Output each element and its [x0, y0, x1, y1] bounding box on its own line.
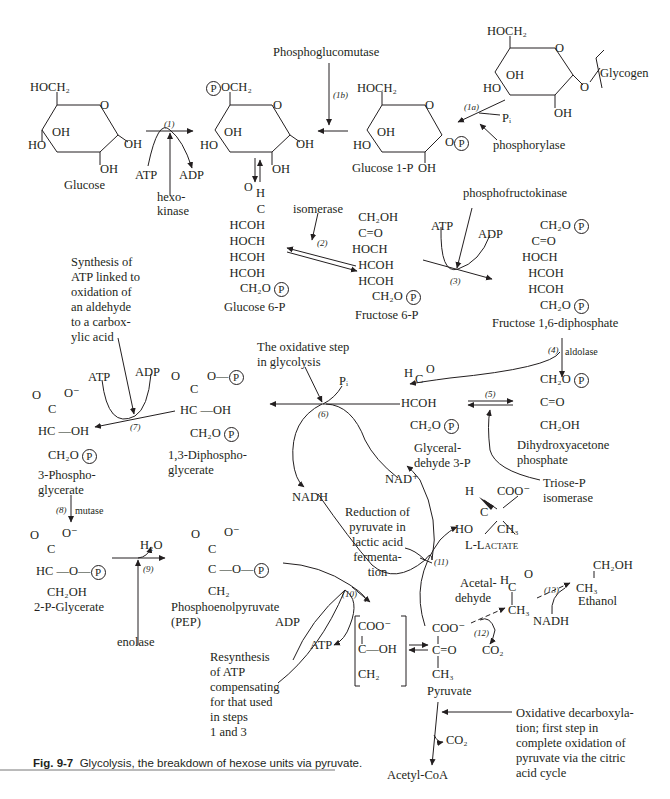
- hexokinase-label-2: kinase: [157, 204, 189, 219]
- h2o-label: H₂O: [140, 538, 162, 553]
- enol-ch2: CH₂: [358, 667, 380, 682]
- g1p-label: Glucose 1-P: [352, 161, 413, 176]
- glycogen-oh: OH: [506, 68, 524, 83]
- glycogen-o-link: O: [580, 80, 589, 95]
- glucose-ch2oh: HOCH₂: [30, 80, 70, 95]
- glucose-label: Glucose: [64, 178, 105, 193]
- pyruvate-co: C=O: [432, 643, 456, 658]
- f6p-chain: CH₂OH C=O HOCH HCOH HCOH: [352, 209, 398, 289]
- phosphate-icon: P: [444, 419, 459, 434]
- dhap-label-2: phosphate: [517, 453, 568, 468]
- nad-label: NAD⁺: [385, 472, 419, 487]
- lactate-c: C: [480, 505, 488, 520]
- step-11-label: (11): [434, 555, 448, 570]
- phosphate-icon: P: [454, 136, 469, 151]
- pg2-label: 2-P-Glycerate: [34, 600, 104, 615]
- glucose-oh: OH: [52, 125, 70, 140]
- bpg-label-1: 1,3-Diphospho-: [168, 448, 247, 463]
- g6p-ring-ch2: POCH₂: [206, 80, 252, 96]
- acetaldehyde-label-2: dehyde: [455, 591, 491, 606]
- pyruvate-ch3: CH₃: [432, 667, 454, 682]
- enol-c-oh: C—OH: [358, 642, 397, 657]
- pep-o: O: [191, 527, 200, 542]
- dhap-ch2oh: CH₂OH: [540, 418, 580, 433]
- bpg-o-p: O—P: [207, 369, 244, 385]
- phosphate-icon: P: [224, 427, 239, 442]
- phosphate-icon: P: [574, 219, 589, 234]
- phosphate-icon: P: [229, 370, 244, 385]
- glycogen-ho: HO: [483, 81, 501, 96]
- pg2-c: C: [47, 542, 55, 557]
- atp-synthesis-annotation: Synthesis of ATP linked to oxidation of …: [71, 255, 140, 345]
- g1p-oh: OH: [377, 125, 395, 140]
- enol-coo: COO⁻: [358, 619, 391, 634]
- step-2-label: (2): [317, 236, 328, 251]
- figure-caption-label: Fig. 9-7: [33, 757, 73, 769]
- pg2-ch2oh: CH₂OH: [47, 585, 87, 600]
- gap-o: O: [426, 362, 435, 377]
- glycogen-ring-o: O: [555, 41, 564, 56]
- pg3-o-minus: O⁻: [64, 386, 80, 401]
- phosphate-icon: P: [274, 282, 289, 297]
- glucose-ho: HO: [28, 138, 46, 153]
- aldolase-label: aldolase: [565, 344, 598, 359]
- figure-caption-text: Glycolysis, the breakdown of hexose unit…: [80, 757, 363, 769]
- phosphate-icon: P: [406, 290, 421, 305]
- lactate-ho: HO: [455, 522, 473, 537]
- lactate-h: H: [465, 484, 474, 499]
- pep-c1: C: [208, 542, 216, 557]
- adp-label: ADP: [275, 615, 300, 630]
- g6p-chain: H C HCOH HOCH HCOH HCOH: [225, 185, 265, 281]
- f16dp-label: Fructose 1,6-diphosphate: [492, 316, 618, 331]
- g1p-ho: HO: [353, 138, 371, 153]
- dhap-co: C=O: [540, 395, 564, 410]
- gap-h: H: [404, 366, 413, 381]
- bpg-label-2: glycerate: [168, 463, 214, 478]
- enolase-label: enolase: [117, 635, 154, 650]
- gap-hcoh: HCOH: [401, 396, 436, 411]
- glycogen-oh: OH: [554, 106, 572, 121]
- phosphate-icon: P: [206, 81, 221, 96]
- triose-isomerase-label-2: isomerase: [543, 491, 593, 506]
- pg3-ch2op: CH₂O P: [48, 448, 97, 464]
- pg2-o-minus: O⁻: [62, 526, 78, 541]
- acetaldehyde-o: O: [524, 567, 533, 582]
- adp-label: ADP: [478, 227, 503, 242]
- pi-label: Pᵢ: [502, 111, 511, 126]
- acetaldehyde-label-1: Acetal-: [460, 576, 497, 591]
- atp-label: ATP: [135, 168, 157, 183]
- nadh-label: NADH: [292, 490, 328, 505]
- glycogen-ch2oh: HOCH₂: [487, 24, 527, 39]
- pg2-hc-o-p: HC —O—P: [36, 564, 106, 580]
- f16dp-chain: C=O HOCH HCOH HCOH: [522, 233, 564, 297]
- pyruvate-coo: COO⁻: [432, 621, 465, 636]
- g6p-ch2op: CH₂O P: [240, 281, 289, 297]
- f6p-ch2op: CH₂O P: [372, 289, 421, 305]
- pg3-o: O: [32, 388, 41, 403]
- gap-label-2: dehyde 3-P: [414, 456, 471, 471]
- g1p-ch2oh: HOCH₂: [357, 81, 397, 96]
- triose-isomerase-label-1: Triose-P: [543, 476, 586, 491]
- step-6-label: (6): [318, 407, 329, 422]
- f16dp-ch2op-bottom: CH₂O P: [540, 298, 589, 314]
- g6p-ring-o: O: [273, 98, 282, 113]
- step-1b-label: (1b): [333, 88, 348, 103]
- pep-label-1: Phosphoenolpyruvate: [171, 600, 279, 615]
- g6p-ring-oh: OH: [296, 137, 314, 152]
- resynthesis-annotation: Resynthesis of ATP compensating for that…: [210, 650, 279, 740]
- g1p-o-p: OP: [445, 135, 469, 151]
- phosphate-icon: P: [254, 563, 269, 578]
- isomerase-label: isomerase: [293, 202, 343, 217]
- g1p-oh: OH: [418, 161, 436, 176]
- atp-label: ATP: [88, 370, 110, 385]
- bpg-hcoh: HC —OH: [180, 403, 231, 418]
- f6p-label: Fructose 6-P: [355, 308, 419, 323]
- step-9-label: (9): [143, 562, 154, 577]
- pg2-o: O: [30, 528, 39, 543]
- glucose-oh: OH: [124, 137, 142, 152]
- acetaldehyde-ch3: CH₃: [508, 603, 530, 618]
- pg3-c: C: [48, 402, 56, 417]
- co2-label: CO₂: [446, 733, 468, 748]
- pi-label: Pᵢ: [339, 374, 348, 389]
- step-13-label: (13): [544, 583, 559, 598]
